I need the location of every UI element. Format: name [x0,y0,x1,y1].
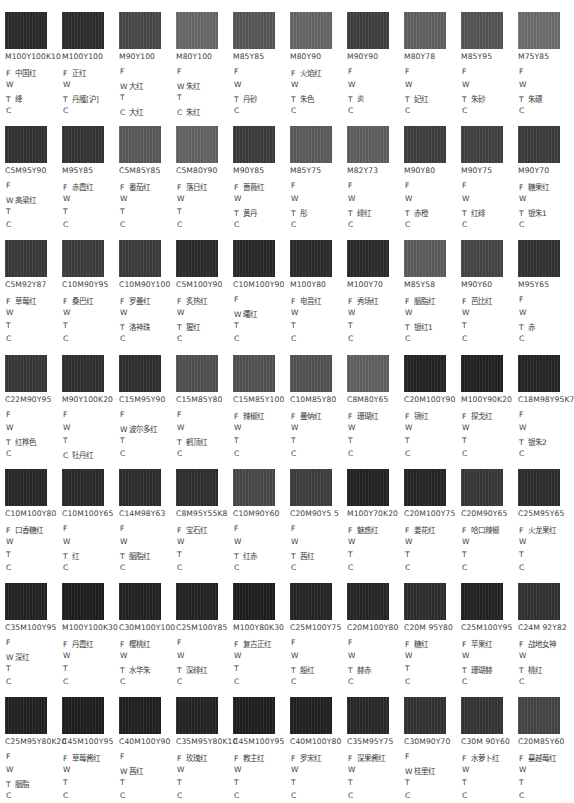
swatch-card: M82Y73FWT绯红C [342,114,399,229]
swatch-card: C25M95Y80K20FWT胭脂C [0,685,57,800]
line-label: T [177,550,186,559]
swatch-card: M100Y70F秀场红WTC [342,228,399,343]
line-label: T [291,552,300,561]
line-label: T [177,207,186,216]
color-swatch [176,355,218,392]
color-swatch [62,469,104,506]
swatch-t-name-line: T水华朱 [120,664,150,675]
swatch-c-name-line: C [291,334,300,343]
swatch-t-name-line: T [519,550,528,559]
swatch-t-name-line: T绯红 [348,207,371,218]
swatch-t-name-line: T [6,550,15,559]
swatch-w-name-line: W [234,423,243,432]
line-label: T [234,209,243,218]
color-name: 黄丹 [243,209,257,218]
swatch-fill-name-line: F [120,752,129,761]
color-swatch [290,126,332,163]
line-label: W [348,765,357,774]
swatch-fill-name-line: F樱桃红 [120,638,150,649]
line-label: F [519,410,528,419]
swatch-fill-name-line: F正红 [63,67,86,78]
swatch-card: M85Y95FWT朱砂C [456,0,513,115]
swatch-code: C20M85Y60 [518,737,564,746]
color-swatch [62,583,104,620]
line-label: T [120,207,129,216]
line-label: W [63,651,72,660]
color-swatch [119,697,161,734]
swatch-t-name-line: T朱色 [291,93,314,104]
swatch-w-name-line: W [519,194,528,203]
swatch-t-name-line: T [405,550,414,559]
swatch-t-name-line: T桃红 [519,664,542,675]
color-name: 赫赤 [357,666,371,675]
swatch-c-name-line: C [120,791,129,800]
swatch-code: M90Y60 [461,280,492,289]
swatch-fill-name-line: F探戈红 [462,410,492,421]
swatch-card: C20M90Y65F哈口辣椒WTC [456,457,513,572]
swatch-w-name-line: W [348,308,357,317]
line-label: F [291,638,300,647]
swatch-t-name-line: T [234,436,243,445]
color-name: 彤 [300,209,307,218]
swatch-w-name-line: W [234,194,243,203]
line-label: W [120,425,129,434]
line-label: T [348,778,357,787]
swatch-code: C20M100Y90 [404,395,455,404]
swatch-t-name-line: T [234,664,243,673]
swatch-t-name-line: T猩红 [177,321,200,332]
swatch-t-name-line: T胭脂 [6,778,29,789]
swatch-code: C20M90Y5 5 [290,509,339,518]
line-label: T [291,778,300,787]
color-name: 罗宋红 [300,754,321,763]
swatch-fill-name-line: F [177,410,186,419]
swatch-card: C40M100Y80F罗宋红WTC [285,685,342,800]
swatch-w-name-line: W [519,537,528,546]
line-label: W [405,308,414,317]
color-swatch [233,583,275,620]
line-label: T [519,778,528,787]
swatch-t-name-line: T [348,778,357,787]
color-swatch [404,583,446,620]
line-label: C [405,791,414,800]
swatch-code: M95Y65 [518,280,549,289]
line-label: F [462,181,471,190]
swatch-row: C5M95Y90FW高粱红TCM95Y85F赤霞红WTCC5M85Y85F番茄红… [0,114,570,229]
line-label: W [6,308,15,317]
color-swatch [290,697,332,734]
swatch-t-name-line: T [234,778,243,787]
color-swatch [347,126,389,163]
line-label: F [348,67,357,76]
swatch-card: M85Y85FWT丹砂C [228,0,285,115]
swatch-fill-name-line: F复古正红 [234,638,271,649]
swatch-card: C10M85Y80F曼纳红WTC [285,343,342,458]
color-name: 丹雘[沪] [72,95,99,104]
swatch-code: M100Y100K10 [5,52,61,61]
line-label: T [519,95,528,104]
swatch-t-name-line: T银红1 [405,321,433,332]
line-label: W [291,80,300,89]
swatch-w-name-line: W [63,308,72,317]
line-label: C [291,334,300,343]
line-label: F [6,297,15,306]
line-label: W [291,308,300,317]
line-label: F [462,640,471,649]
swatch-w-name-line: W [462,423,471,432]
line-label: T [63,95,72,104]
swatch-fill-name-line: F桑巴红 [63,295,93,306]
line-label: W [405,194,414,203]
color-name: 银红1 [414,323,433,332]
color-swatch [347,697,389,734]
line-label: F [291,297,300,306]
line-label: W [519,651,528,660]
line-label: F [6,526,15,535]
swatch-code: C45M100Y95 [62,737,113,746]
swatch-c-name-line: C [291,791,300,800]
line-label: C [120,334,129,343]
line-label: F [234,67,243,76]
swatch-w-name-line: W [405,80,414,89]
color-name: 草莓红 [15,297,36,306]
swatch-code: C10M85Y80 [290,395,336,404]
swatch-code: M100Y80K30 [233,623,284,632]
swatch-card: C30M100Y100F樱桃红WT水华朱C [114,571,171,686]
swatch-card: C35M95Y80K10F玫瑰红WTC [171,685,228,800]
